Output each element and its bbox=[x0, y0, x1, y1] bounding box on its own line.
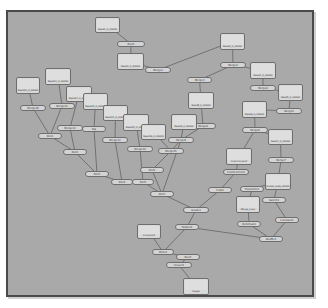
node-thumbnail bbox=[238, 198, 258, 208]
read-node[interactable]: Read8_0_00000 bbox=[188, 92, 214, 109]
node-thumbnail bbox=[270, 131, 291, 140]
operator-node[interactable]: Grade1 bbox=[183, 207, 209, 213]
read-node[interactable]: Read1_0_00000 bbox=[95, 17, 120, 33]
node-label: Crop1 bbox=[216, 189, 224, 192]
read-node[interactable]: Read5_0_00000 bbox=[278, 84, 303, 101]
node-label: Merge11 bbox=[56, 105, 67, 108]
operator-node[interactable]: Dot4 bbox=[111, 179, 133, 185]
node-label: Merge4 bbox=[258, 87, 268, 90]
node-label: Viewer bbox=[184, 290, 208, 294]
read-node[interactable]: Read4_0_00000 bbox=[250, 62, 276, 79]
node-label: Dot4 bbox=[119, 181, 125, 184]
node-label: Merge9 bbox=[176, 139, 186, 142]
operator-node[interactable]: Dot7 bbox=[150, 191, 174, 197]
read-node[interactable]: Constant2 bbox=[137, 224, 161, 239]
node-thumbnail bbox=[190, 94, 212, 104]
operator-node[interactable]: Blur2 bbox=[176, 254, 200, 260]
operator-node[interactable]: Merge14 bbox=[127, 146, 153, 152]
operator-node[interactable]: Switch1 bbox=[262, 197, 286, 203]
operator-node[interactable]: Shuffle1 bbox=[259, 236, 283, 242]
node-label: Grade_node_00000 bbox=[266, 185, 290, 189]
node-label: Merge7 bbox=[276, 159, 286, 162]
operator-node[interactable]: Crop1 bbox=[208, 187, 232, 193]
operator-node[interactable]: Merge13 bbox=[102, 137, 128, 143]
read-node[interactable]: Read3_0_00000 bbox=[220, 33, 245, 50]
operator-node[interactable]: Dot5 bbox=[132, 179, 154, 185]
operator-node[interactable]: ColorCorrect1 bbox=[223, 169, 249, 175]
operator-node[interactable]: Dot2 bbox=[63, 149, 87, 155]
node-label: Merge5 bbox=[284, 110, 294, 113]
node-label: Constant2 bbox=[138, 234, 160, 238]
node-label: Constant1 bbox=[280, 219, 293, 222]
operator-node[interactable]: Merge3 bbox=[187, 77, 212, 83]
node-thumbnail bbox=[119, 55, 142, 65]
node-thumbnail bbox=[47, 70, 69, 80]
operator-node[interactable]: Merge2 bbox=[220, 62, 246, 68]
operator-node[interactable]: Dot1 bbox=[38, 133, 62, 139]
node-label: Read7_0_00000 bbox=[269, 140, 292, 144]
read-node[interactable]: Read2_0_00000 bbox=[117, 53, 144, 70]
read-node[interactable]: Read6_0_00000 bbox=[242, 101, 267, 118]
node-label: Dot5 bbox=[140, 181, 146, 184]
node-thumbnail bbox=[139, 226, 159, 234]
operator-node[interactable]: Constant1 bbox=[275, 217, 299, 223]
node-label: Output1 bbox=[182, 226, 193, 229]
operator-node[interactable]: Merge4 bbox=[250, 85, 276, 91]
node-label: Transform1 bbox=[245, 188, 260, 191]
node-thumbnail bbox=[280, 86, 301, 96]
operator-node[interactable]: Viewer1 bbox=[166, 262, 192, 268]
operator-node[interactable]: Merge1 bbox=[145, 67, 171, 73]
node-label: Read6_0_00000 bbox=[243, 113, 266, 117]
node-label: Read8_0_00000 bbox=[189, 104, 213, 108]
node-label: ColorCorrect2 bbox=[227, 160, 251, 164]
operator-node[interactable]: Write1 bbox=[152, 249, 174, 255]
node-label: Grade1 bbox=[191, 209, 201, 212]
operator-node[interactable]: Merge6 bbox=[242, 127, 268, 133]
operator-node[interactable]: Merge9 bbox=[168, 137, 194, 143]
node-label: Read5_0_00000 bbox=[279, 96, 302, 100]
operator-node[interactable]: Blur1 bbox=[117, 41, 145, 47]
node-label: Merge10 bbox=[27, 107, 38, 110]
node-label: Dot2 bbox=[72, 151, 78, 154]
node-thumbnail bbox=[143, 126, 164, 135]
operator-node[interactable]: Dot3 bbox=[85, 171, 109, 177]
node-label: Tap bbox=[92, 128, 96, 131]
node-label: Read1_0_00000 bbox=[96, 28, 119, 32]
node-label: Read2_0_00000 bbox=[118, 65, 143, 69]
node-thumbnail bbox=[244, 103, 265, 113]
read-node[interactable]: ColorCorrect2 bbox=[226, 148, 252, 165]
read-node[interactable]: Viewer bbox=[183, 278, 209, 295]
read-node[interactable]: Read11_0_00000 bbox=[45, 68, 71, 85]
read-node[interactable]: Merge_main bbox=[236, 196, 260, 213]
node-label: Merge1 bbox=[153, 69, 163, 72]
operator-node[interactable]: Output1 bbox=[175, 224, 199, 230]
read-node[interactable]: Read7_0_00000 bbox=[268, 129, 293, 145]
node-label: Merge14 bbox=[134, 148, 145, 151]
read-node[interactable]: Read10_0_00000 bbox=[16, 77, 40, 94]
operator-node[interactable]: Merge5 bbox=[276, 108, 302, 114]
node-label: Read10_0_00000 bbox=[17, 89, 39, 93]
node-thumbnail bbox=[85, 95, 106, 105]
node-label: Reformat1 bbox=[242, 223, 256, 226]
operator-node[interactable]: Merge10 bbox=[20, 105, 46, 111]
node-label: Merge8 bbox=[198, 125, 208, 128]
node-label: Merge_main bbox=[237, 208, 259, 212]
node-label: Merge12 bbox=[64, 127, 75, 130]
operator-node[interactable]: Merge7 bbox=[268, 157, 294, 163]
node-label: Read11_0_00000 bbox=[46, 80, 70, 84]
node-label: Dot1 bbox=[47, 135, 53, 138]
read-node[interactable]: Grade_node_00000 bbox=[265, 173, 291, 190]
node-label: Read9_0_00000 bbox=[172, 125, 196, 129]
node-label: Viewer1 bbox=[174, 264, 184, 267]
operator-node[interactable]: Tap bbox=[82, 126, 106, 132]
operator-node[interactable]: Merge12 bbox=[57, 125, 83, 131]
operator-node[interactable]: Dot6 bbox=[140, 167, 164, 173]
node-label: Read4_0_00000 bbox=[251, 74, 275, 78]
read-node[interactable]: Read9_0_00000 bbox=[171, 114, 197, 130]
operator-node[interactable]: Reformat1 bbox=[237, 221, 261, 227]
read-node[interactable]: Read16_0_00000 bbox=[141, 124, 166, 140]
node-label: Shuffle1 bbox=[266, 238, 277, 241]
operator-node[interactable]: Merge11 bbox=[49, 103, 75, 109]
operator-node[interactable]: Transform1 bbox=[240, 186, 264, 192]
operator-node[interactable]: Merge15 bbox=[158, 148, 184, 154]
